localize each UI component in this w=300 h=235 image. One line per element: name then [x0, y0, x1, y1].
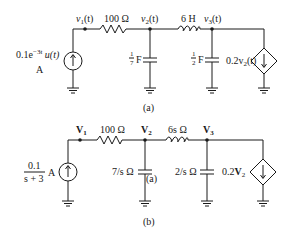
ground-icon — [201, 201, 213, 206]
ground-icon — [139, 201, 151, 206]
resistor-icon — [100, 25, 126, 33]
ground-icon — [67, 88, 79, 93]
source-unit-b: A — [48, 167, 56, 178]
node-label-V3: V3 — [203, 124, 214, 137]
circuit-diagram: v1(t) 100 Ω v2(t) 6 H v3(t) 0.1e−3t u(t)… — [0, 0, 300, 235]
cap2-den-a: 2 — [192, 59, 196, 67]
cap1-note-b: (a) — [146, 173, 157, 185]
inductor-label: 6 H — [181, 13, 196, 24]
node-label-v2: v2(t) — [141, 13, 158, 26]
caption-a: (a) — [143, 102, 154, 114]
inductor-icon — [178, 26, 200, 31]
cap2-unit-a: F — [198, 54, 204, 65]
inductor-icon — [166, 137, 188, 142]
node-label-v1: v1(t) — [76, 13, 93, 26]
cap1-label-b: 7/s Ω — [112, 166, 134, 177]
resistor-label: 100 Ω — [100, 124, 125, 135]
circuit-a: v1(t) 100 Ω v2(t) 6 H v3(t) 0.1e−3t u(t)… — [16, 13, 277, 114]
node-V1 — [78, 138, 82, 142]
ground-icon — [62, 201, 74, 206]
source-label-a: 0.1e−3t u(t) — [16, 48, 60, 61]
source-unit-a: A — [36, 64, 44, 75]
cap1-den-a: 7 — [130, 59, 134, 67]
cap1-num-a: 1 — [130, 50, 134, 58]
node-v1 — [83, 27, 87, 31]
capacitor-icon — [200, 170, 214, 174]
node-label-V1: V1 — [76, 124, 87, 137]
dep-source-label-b: 0.2V2 — [222, 166, 246, 179]
cap2-label-b: 2/s Ω — [175, 166, 197, 177]
node-label-v3: v3(t) — [204, 13, 221, 26]
capacitor-icon — [205, 58, 219, 62]
source-den-b: s + 3 — [24, 173, 44, 184]
circuit-b: V1 100 Ω V2 6s Ω V3 0.1 s + 3 A 7/s Ω (a… — [24, 124, 276, 228]
cap2-num-a: 1 — [192, 50, 196, 58]
cap1-unit-a: F — [136, 54, 142, 65]
ground-icon — [144, 88, 156, 93]
ground-icon — [258, 88, 270, 93]
source-num-b: 0.1 — [28, 160, 41, 171]
node-label-V2: V2 — [141, 124, 152, 137]
caption-b: (b) — [143, 216, 155, 228]
resistor-label: 100 Ω — [104, 13, 129, 24]
resistor-icon — [97, 136, 122, 144]
capacitor-icon — [143, 58, 157, 62]
dep-source-label-a: 0.2v2(t) — [226, 55, 256, 68]
inductor-label: 6s Ω — [168, 124, 187, 135]
ground-icon — [257, 201, 269, 206]
ground-icon — [206, 88, 218, 93]
